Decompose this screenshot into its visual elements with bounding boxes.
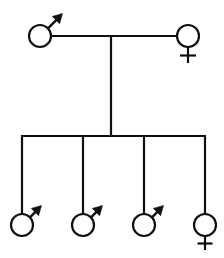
generation-two-group: [11, 136, 216, 250]
mars-arrow-icon: [91, 206, 102, 218]
generation-one-group: [29, 14, 199, 137]
pedigree-diagram: [0, 0, 224, 258]
venus-cross-icon: [180, 47, 196, 63]
individual-II-4-female[interactable]: [194, 136, 216, 250]
individual-I-2-female[interactable]: [177, 25, 199, 63]
mars-arrow-icon: [152, 206, 163, 218]
mars-arrow-icon: [30, 206, 41, 218]
individual-II-4-circle[interactable]: [194, 214, 216, 236]
mars-arrow-icon: [48, 14, 62, 29]
individual-II-3-male[interactable]: [133, 136, 164, 236]
individual-I-2-circle[interactable]: [177, 25, 199, 47]
pedigree-canvas: [0, 0, 224, 258]
individual-I-1-male[interactable]: [29, 14, 63, 48]
venus-cross-icon: [198, 236, 213, 250]
individual-II-1-male[interactable]: [11, 136, 42, 236]
individual-II-2-male[interactable]: [72, 136, 103, 236]
